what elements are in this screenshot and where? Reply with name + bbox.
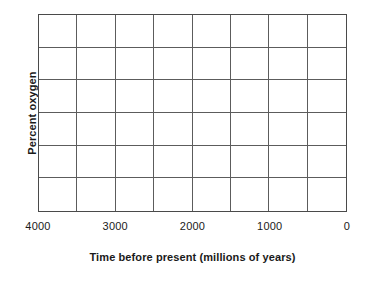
grid-cell [116, 146, 154, 179]
grid-cell [308, 15, 346, 48]
grid-cell [39, 48, 77, 81]
grid-cell [308, 48, 346, 81]
grid-cell [116, 80, 154, 113]
x-axis-title: Time before present (millions of years) [38, 250, 347, 264]
grid-lines [39, 15, 346, 211]
x-axis-tick-label: 3000 [103, 218, 128, 234]
grid-cell [269, 113, 307, 146]
grid-cell [154, 15, 192, 48]
grid-cell [154, 48, 192, 81]
grid-cell [39, 146, 77, 179]
grid-cell [39, 80, 77, 113]
grid-cell [269, 80, 307, 113]
grid-cell [193, 15, 231, 48]
grid-cell [269, 15, 307, 48]
grid-cell [116, 48, 154, 81]
x-axis-tick-label: 2000 [180, 218, 205, 234]
grid-cell [39, 178, 77, 211]
grid-cell [269, 48, 307, 81]
grid-cell [77, 48, 115, 81]
grid-cell [77, 146, 115, 179]
grid-cell [77, 113, 115, 146]
x-axis-tick-labels: 40003000200010000 [38, 218, 347, 234]
grid-cell [116, 15, 154, 48]
x-axis-tick-label: 0 [344, 218, 350, 234]
grid-cell [269, 146, 307, 179]
grid-cell [269, 178, 307, 211]
grid-cell [39, 15, 77, 48]
grid-cell [308, 113, 346, 146]
grid-cell [231, 178, 269, 211]
grid-cell [116, 178, 154, 211]
grid-cell [308, 178, 346, 211]
grid-cell [77, 80, 115, 113]
grid-cell [231, 80, 269, 113]
grid-cell [308, 80, 346, 113]
grid-cell [39, 113, 77, 146]
x-axis-tick-label: 1000 [257, 218, 282, 234]
grid-cell [193, 146, 231, 179]
grid-cell [154, 178, 192, 211]
grid-cell [154, 80, 192, 113]
grid-cell [77, 15, 115, 48]
grid-cell [116, 113, 154, 146]
grid-cell [193, 48, 231, 81]
grid-cell [77, 178, 115, 211]
x-axis-tick-label: 4000 [25, 218, 50, 234]
grid-cell [154, 146, 192, 179]
chart-figure: Percent oxygen 40003000200010000 Time be… [0, 0, 370, 281]
grid-cell [231, 48, 269, 81]
grid-cell [193, 178, 231, 211]
grid-cell [231, 113, 269, 146]
grid-cell [154, 113, 192, 146]
grid-cell [231, 15, 269, 48]
plot-area [38, 14, 347, 212]
grid-cell [193, 113, 231, 146]
grid-cell [231, 146, 269, 179]
grid-cell [193, 80, 231, 113]
grid-cell [308, 146, 346, 179]
